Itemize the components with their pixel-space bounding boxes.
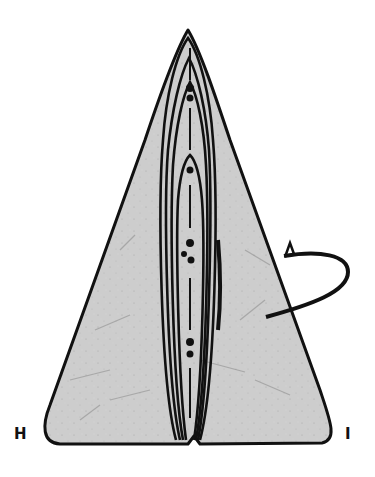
corner-label-i: I <box>345 425 351 443</box>
paper-triangle <box>45 30 331 444</box>
origami-diagram <box>0 0 375 477</box>
inner-flap-edge <box>218 240 220 330</box>
corner-label-h: H <box>14 425 27 443</box>
